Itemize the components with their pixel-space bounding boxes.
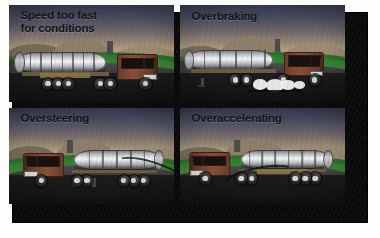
tank-ring bbox=[83, 52, 85, 73]
tank-ring bbox=[251, 50, 253, 70]
skid-mark bbox=[246, 90, 302, 92]
truck-cab bbox=[189, 152, 230, 175]
truck-cab bbox=[284, 52, 324, 76]
trailer-wheel bbox=[62, 78, 74, 90]
tank-ring bbox=[102, 150, 104, 170]
tank-end-cap bbox=[14, 52, 24, 73]
tank-end-cap bbox=[184, 50, 194, 70]
tank-ring bbox=[301, 150, 303, 169]
truck-cab bbox=[117, 54, 158, 79]
cab-nose bbox=[320, 58, 323, 72]
tank-ring bbox=[264, 50, 266, 70]
steer-wheel bbox=[139, 78, 151, 90]
landing-gear-foot bbox=[198, 85, 205, 87]
steer-wheel bbox=[35, 175, 47, 187]
tank-ring bbox=[88, 150, 90, 170]
tank-ring bbox=[249, 150, 251, 169]
cab-window bbox=[203, 156, 226, 167]
panel-overbraking: Overbraking bbox=[180, 5, 345, 102]
tank-ring bbox=[40, 52, 42, 73]
tank-ring bbox=[30, 52, 32, 73]
panel-caption: Speed too fast for conditions bbox=[21, 9, 97, 35]
exhaust-stack bbox=[275, 39, 281, 52]
steer-wheel bbox=[199, 172, 211, 184]
tanker-trailer bbox=[17, 52, 106, 73]
tank-ring bbox=[314, 150, 316, 169]
trailer-wheel bbox=[229, 74, 241, 86]
truck-cab bbox=[23, 153, 63, 177]
cab-nose bbox=[24, 158, 27, 172]
figure-root: Speed too fast for conditions bbox=[0, 0, 380, 238]
cab-nose bbox=[190, 158, 193, 171]
tractor-wheel bbox=[71, 175, 83, 187]
tanker-trailer bbox=[187, 50, 274, 70]
exhaust-stack bbox=[67, 140, 73, 153]
cab-window bbox=[121, 58, 144, 70]
cab-window bbox=[37, 156, 60, 167]
tank-end-cap bbox=[323, 150, 333, 169]
tank-ring bbox=[219, 50, 221, 70]
tanker-truck bbox=[17, 49, 162, 90]
exhaust-stack bbox=[107, 41, 113, 55]
cab-nose bbox=[154, 60, 157, 75]
tank-ring bbox=[51, 52, 53, 73]
panel-caption: Oversteering bbox=[21, 112, 90, 125]
tank-ring bbox=[62, 52, 64, 73]
tank-ring bbox=[235, 50, 237, 70]
trailer-frame bbox=[191, 69, 276, 72]
panel-overaccelerating: Overaccelerating bbox=[180, 108, 345, 205]
trailer-wheel bbox=[241, 74, 253, 86]
panel-caption: Overaccelerating bbox=[192, 112, 282, 125]
panel-caption: Overbraking bbox=[192, 10, 258, 23]
exhaust-stack bbox=[234, 140, 240, 152]
cab-window bbox=[288, 55, 311, 66]
tank-ring bbox=[72, 52, 74, 73]
panel-grid: Speed too fast for conditions bbox=[9, 5, 345, 204]
steer-wheel bbox=[309, 74, 321, 86]
tractor-wheel bbox=[104, 78, 116, 90]
panel-speed-too-fast: Speed too fast for conditions bbox=[9, 5, 174, 102]
tank-ring bbox=[204, 50, 206, 70]
tank-ring bbox=[93, 52, 95, 73]
panel-oversteering: Oversteering bbox=[9, 108, 174, 205]
